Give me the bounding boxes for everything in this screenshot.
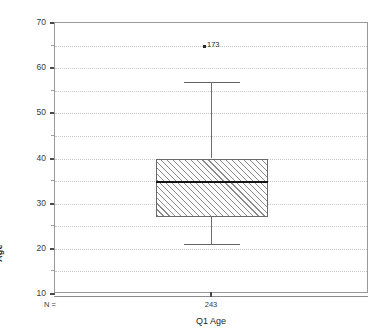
whisker-lower-cap (184, 244, 240, 245)
y-axis-title: Age (0, 244, 4, 262)
median-line (156, 181, 268, 183)
n-value: 243 (0, 301, 388, 309)
y-tick-label: 30 (22, 199, 46, 208)
y-tick-label: 10 (22, 289, 46, 298)
gridline (55, 249, 367, 250)
whisker-lower-line (211, 217, 212, 244)
box-iqr-rect (156, 159, 268, 218)
gridline (55, 271, 367, 272)
x-axis-title: Q1 Age (0, 316, 388, 326)
whisker-upper-cap (184, 82, 240, 83)
plot-area: 173 (55, 23, 367, 292)
y-tick-major (50, 293, 55, 295)
plot-frame: 173 (54, 22, 368, 293)
y-tick-label: 50 (22, 108, 46, 117)
y-tick-label: 20 (22, 244, 46, 253)
outlier-label: 173 (207, 41, 220, 49)
y-tick-label: 60 (22, 63, 46, 72)
outlier-marker (203, 45, 206, 48)
x-axis-tick (210, 292, 212, 297)
gridline (55, 68, 367, 69)
y-tick-label: 40 (22, 154, 46, 163)
y-tick-label: 70 (22, 18, 46, 27)
whisker-upper-line (211, 82, 212, 159)
